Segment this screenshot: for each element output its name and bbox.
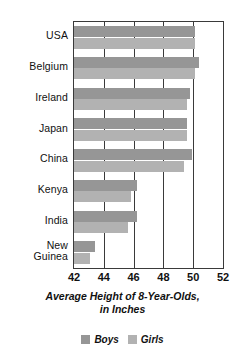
bar-group bbox=[74, 53, 223, 84]
category-label-new-guinea: NewGuinea bbox=[0, 240, 68, 263]
category-label-belgium: Belgium bbox=[0, 61, 68, 73]
bar-india-girls bbox=[74, 222, 128, 233]
chart-title-line1: Average Height of 8-Year-Olds, bbox=[45, 290, 199, 302]
chart-title-line2: in Inches bbox=[8, 303, 237, 316]
bar-group bbox=[74, 84, 223, 115]
bar-chart: USABelgiumIrelandJapanChinaKenyaIndiaNew… bbox=[0, 0, 245, 354]
x-tick-label-44: 44 bbox=[89, 271, 119, 283]
bar-usa-boys bbox=[74, 26, 195, 37]
category-label-line2: Guinea bbox=[0, 251, 68, 263]
bar-kenya-boys bbox=[74, 180, 137, 191]
legend-item-girls: Girls bbox=[128, 334, 164, 345]
x-tick-label-48: 48 bbox=[148, 271, 178, 283]
x-tick-label-50: 50 bbox=[178, 271, 208, 283]
bar-japan-boys bbox=[74, 118, 187, 129]
category-label-line1: Kenya bbox=[38, 183, 68, 195]
bar-group bbox=[74, 22, 223, 53]
bar-new-guinea-girls bbox=[74, 253, 90, 264]
legend-label-girls: Girls bbox=[141, 334, 164, 345]
legend-swatch-girls bbox=[128, 335, 137, 344]
bar-new-guinea-boys bbox=[74, 241, 95, 252]
bar-belgium-girls bbox=[74, 68, 195, 79]
category-label-china: China bbox=[0, 153, 68, 165]
bar-belgium-boys bbox=[74, 57, 199, 68]
bar-group bbox=[74, 237, 223, 268]
category-label-line1: New bbox=[47, 239, 68, 251]
category-label-line1: China bbox=[40, 152, 68, 164]
bar-group bbox=[74, 176, 223, 207]
category-label-line1: Belgium bbox=[29, 60, 68, 72]
category-label-line1: USA bbox=[46, 29, 68, 41]
legend-swatch-boys bbox=[81, 335, 90, 344]
bars-layer bbox=[74, 22, 223, 268]
category-axis-labels: USABelgiumIrelandJapanChinaKenyaIndiaNew… bbox=[0, 21, 68, 269]
category-label-line1: India bbox=[45, 214, 68, 226]
bar-group bbox=[74, 114, 223, 145]
bar-china-girls bbox=[74, 161, 184, 172]
chart-title: Average Height of 8-Year-Olds, in Inches bbox=[8, 290, 237, 315]
bar-ireland-boys bbox=[74, 88, 190, 99]
category-label-usa: USA bbox=[0, 30, 68, 42]
category-label-ireland: Ireland bbox=[0, 92, 68, 104]
category-label-line1: Ireland bbox=[35, 91, 68, 103]
x-tick-label-52: 52 bbox=[208, 271, 238, 283]
x-tick-label-42: 42 bbox=[59, 271, 89, 283]
legend-item-boys: Boys bbox=[81, 334, 118, 345]
category-label-japan: Japan bbox=[0, 123, 68, 135]
bar-kenya-girls bbox=[74, 191, 131, 202]
bar-group bbox=[74, 207, 223, 238]
category-label-kenya: Kenya bbox=[0, 184, 68, 196]
category-label-line1: Japan bbox=[39, 122, 68, 134]
bar-japan-girls bbox=[74, 130, 187, 141]
bar-group bbox=[74, 145, 223, 176]
x-tick-label-46: 46 bbox=[119, 271, 149, 283]
legend-label-boys: Boys bbox=[94, 334, 118, 345]
category-label-india: India bbox=[0, 215, 68, 227]
bar-usa-girls bbox=[74, 38, 195, 49]
bar-china-boys bbox=[74, 149, 192, 160]
chart-legend: BoysGirls bbox=[0, 334, 245, 345]
bar-india-boys bbox=[74, 211, 137, 222]
x-axis-tick-labels: 424446485052 bbox=[0, 271, 245, 287]
bar-ireland-girls bbox=[74, 99, 187, 110]
